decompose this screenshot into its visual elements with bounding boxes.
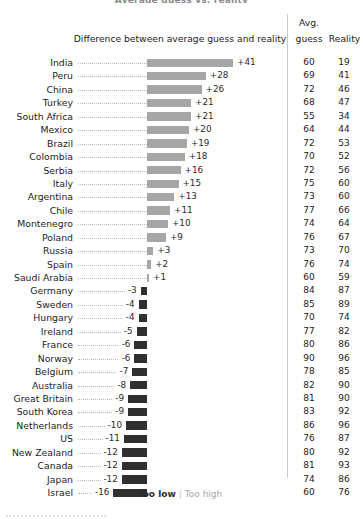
bar-too-high (122, 475, 147, 483)
bar-too-low (147, 180, 179, 188)
leader-line (78, 103, 147, 104)
chart-row: Chile+117766 (0, 204, 363, 217)
bar-too-high (139, 314, 147, 322)
avg-guess-value: 75 (292, 178, 326, 188)
country-label: Italy (0, 178, 73, 189)
avg-guess-value: 73 (292, 245, 326, 255)
chart-row: France-68086 (0, 338, 363, 351)
country-label: Canada (0, 460, 73, 471)
reality-value: 34 (327, 111, 361, 121)
leader-line (78, 90, 147, 91)
leader-line (78, 76, 147, 77)
country-label: Mexico (0, 124, 73, 135)
country-label: Hungary (0, 312, 73, 323)
reality-value: 89 (327, 299, 361, 309)
country-label: Japan (0, 474, 73, 485)
difference-value: +2 (155, 259, 168, 269)
chart-row: Italy+157560 (0, 177, 363, 190)
difference-value: +41 (237, 57, 256, 67)
reality-value: 90 (327, 380, 361, 390)
avg-guess-value: 90 (292, 353, 326, 363)
reality-value: 59 (327, 272, 361, 282)
bar-too-low (147, 206, 170, 214)
chart-row: Brazil+197253 (0, 137, 363, 150)
avg-guess-value: 64 (292, 124, 326, 134)
bar-too-high (122, 462, 147, 470)
avg-guess-value: 80 (292, 339, 326, 349)
difference-value: -8 (117, 380, 126, 390)
chart-row: New Zealand-128092 (0, 446, 363, 459)
country-label: Great Britain (0, 393, 73, 404)
country-label: Sweden (0, 299, 73, 310)
country-label: Belgium (0, 366, 73, 377)
difference-value: +9 (170, 232, 183, 242)
reality-value: 66 (327, 205, 361, 215)
reality-value: 85 (327, 366, 361, 376)
chart-row: Peru+286941 (0, 69, 363, 82)
chart-row: Saudi Arabia+16059 (0, 271, 363, 284)
legend-separator: | (179, 489, 182, 499)
difference-value: -6 (122, 339, 131, 349)
bar-too-low (147, 59, 233, 67)
avg-guess-value: 80 (292, 447, 326, 457)
chart-row: US-117687 (0, 432, 363, 445)
bar-too-high (130, 381, 147, 389)
avg-guess-value: 69 (292, 70, 326, 80)
difference-value: +11 (174, 205, 193, 215)
reality-value: 64 (327, 218, 361, 228)
bar-too-high (137, 327, 148, 335)
chart-row: China+267246 (0, 83, 363, 96)
chart-row: South Africa+215534 (0, 110, 363, 123)
country-label: Colombia (0, 151, 73, 162)
leader-line (78, 130, 147, 131)
difference-value: +28 (210, 70, 229, 80)
leader-line (78, 386, 114, 387)
avg-guess-value: 76 (292, 433, 326, 443)
avg-guess-value: 84 (292, 285, 326, 295)
bar-too-low (147, 126, 189, 134)
difference-value: -12 (103, 447, 117, 457)
avg-guess-value: 76 (292, 259, 326, 269)
reality-value: 74 (327, 312, 361, 322)
bar-too-low (147, 274, 149, 282)
avg-guess-value: 83 (292, 406, 326, 416)
chart-row: Poland+97667 (0, 231, 363, 244)
bar-too-high (134, 341, 147, 349)
bar-too-high (128, 408, 147, 416)
country-label: South Korea (0, 406, 73, 417)
avg-guess-value: 60 (292, 57, 326, 67)
bar-too-high (124, 435, 147, 443)
reality-value: 96 (327, 420, 361, 430)
bar-too-high (132, 368, 147, 376)
reality-value: 96 (327, 353, 361, 363)
reality-value: 53 (327, 138, 361, 148)
reality-value: 92 (327, 447, 361, 457)
reality-value: 86 (327, 339, 361, 349)
avg-guess-value: 76 (292, 232, 326, 242)
difference-value: -9 (115, 393, 124, 403)
avg-guess-value: 73 (292, 191, 326, 201)
country-label: Australia (0, 380, 73, 391)
reality-value: 47 (327, 97, 361, 107)
avg-guess-value: 77 (292, 205, 326, 215)
bar-too-high (134, 354, 147, 362)
leader-line (78, 291, 125, 292)
leader-line (78, 372, 116, 373)
avg-guess-value: 60 (292, 272, 326, 282)
country-label: Poland (0, 232, 73, 243)
avg-guess-header-line1: Avg. (292, 17, 326, 28)
difference-value: -7 (120, 366, 129, 376)
country-label: Brazil (0, 138, 73, 149)
difference-value: -12 (103, 460, 117, 470)
reality-value: 90 (327, 393, 361, 403)
difference-value: +19 (191, 138, 210, 148)
avg-guess-value: 70 (292, 151, 326, 161)
leader-line (78, 265, 147, 266)
reality-value: 52 (327, 151, 361, 161)
country-label: Peru (0, 70, 73, 81)
leader-line (78, 63, 147, 64)
reality-value: 46 (327, 84, 361, 94)
chart-row: Great Britain-98190 (0, 392, 363, 405)
chart-row: Colombia+187052 (0, 150, 363, 163)
difference-column-header: Difference between average guess and rea… (72, 33, 288, 44)
